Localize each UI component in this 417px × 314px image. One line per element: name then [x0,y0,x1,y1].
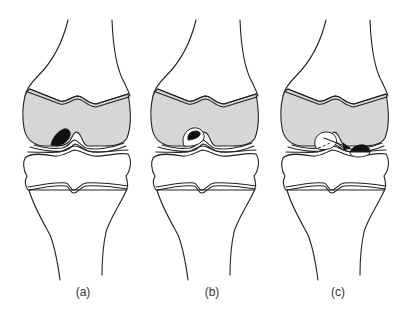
panel-c: (c) [281,20,389,299]
panel-b: (b) [151,20,259,299]
knee-diagram: (a) (b) (c) [0,0,417,314]
empty-crater [315,132,337,150]
knee-joint-b [151,20,259,280]
knee-joint-c [281,20,389,280]
knee-joint-a [23,20,131,280]
panel-label-c: (c) [331,285,345,299]
panel-label-a: (a) [76,285,91,299]
panel-a: (a) [23,20,131,299]
panel-label-b: (b) [205,285,220,299]
